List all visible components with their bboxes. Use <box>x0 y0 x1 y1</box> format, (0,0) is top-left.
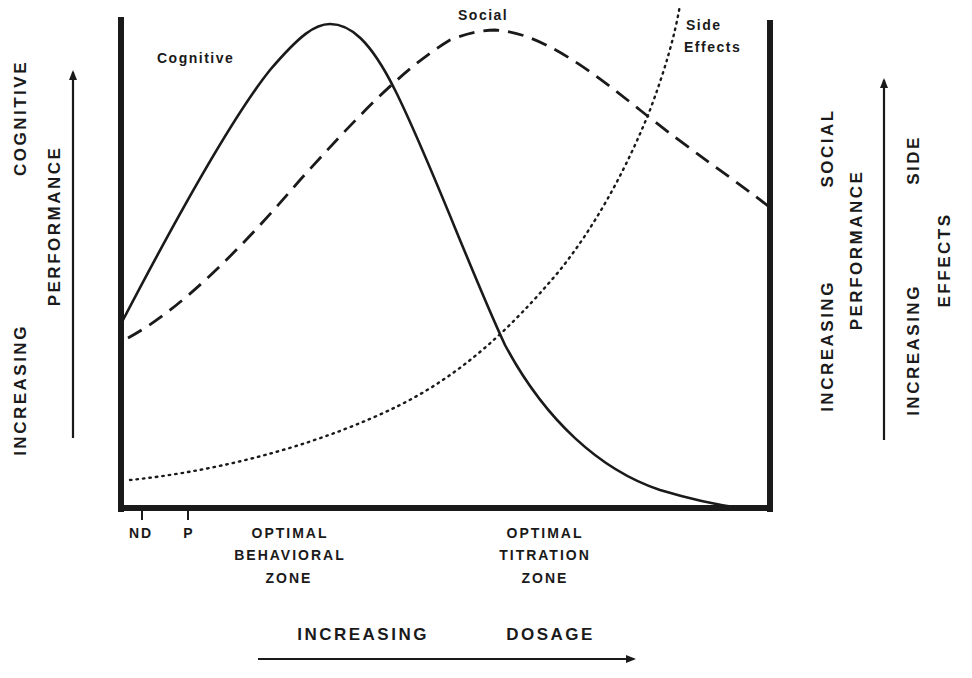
dosage-response-chart: Cognitive Social Side Effects INCREASING… <box>0 0 972 678</box>
social-curve <box>128 30 768 338</box>
cognitive-curve <box>123 24 740 508</box>
right-y-title-effects: EFFECTS <box>935 213 954 308</box>
side-effects-label-line2: Effects <box>684 39 741 55</box>
left-y-title-cognitive: COGNITIVE <box>11 60 30 176</box>
cognitive-label: Cognitive <box>157 50 234 66</box>
behavioral-zone-line3: ZONE <box>266 570 313 586</box>
left-y-title-increasing: INCREASING <box>11 324 30 456</box>
left-y-axis-title: INCREASING COGNITIVE PERFORMANCE <box>11 60 64 456</box>
side-effects-label-line1: Side <box>686 17 722 33</box>
left-y-title-performance: PERFORMANCE <box>45 146 64 307</box>
titration-zone-line1: OPTIMAL <box>507 525 584 541</box>
x-tick-label-p: P <box>183 525 194 541</box>
right-y-axis-title-side-effects: INCREASING SIDE EFFECTS <box>904 135 954 416</box>
right-y-title-side: SIDE <box>904 135 923 185</box>
optimal-titration-zone-label: OPTIMAL TITRATION ZONE <box>499 525 591 586</box>
right-y-title-performance: PERFORMANCE <box>847 170 866 331</box>
titration-zone-line2: TITRATION <box>499 547 591 563</box>
social-label: Social <box>458 7 508 23</box>
behavioral-zone-line2: BEHAVIORAL <box>234 547 346 563</box>
titration-zone-line3: ZONE <box>522 570 569 586</box>
right-y-title-increasing-1: INCREASING <box>818 280 837 412</box>
x-tick-label-nd: ND <box>129 525 153 541</box>
right-y-title-increasing-2: INCREASING <box>904 284 923 416</box>
right-y-axis-title-social: INCREASING SOCIAL PERFORMANCE <box>818 108 866 411</box>
right-y-title-social: SOCIAL <box>818 108 837 187</box>
optimal-behavioral-zone-label: OPTIMAL BEHAVIORAL ZONE <box>234 525 346 586</box>
behavioral-zone-line1: OPTIMAL <box>252 525 329 541</box>
x-axis-title: INCREASING DOSAGE <box>297 625 595 644</box>
